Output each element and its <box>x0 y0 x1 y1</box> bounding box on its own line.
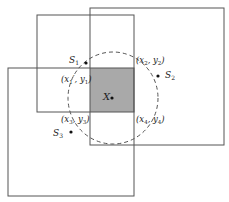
label-s3: S3 <box>53 128 63 139</box>
corner-label-4: (x4, y4) <box>136 114 165 125</box>
corner-label-2: (x2, y2) <box>136 55 165 66</box>
label-x: X <box>102 91 111 102</box>
corner-label-3: (x3, y3) <box>61 114 90 125</box>
point-x <box>110 96 113 99</box>
point-s3 <box>69 130 72 133</box>
point-s1 <box>84 61 87 64</box>
label-s1: S1 <box>69 55 79 66</box>
label-s2: S2 <box>165 70 175 81</box>
coverage-diagram: X S1 S2 S3 (x1′, y1) (x2, y2) (x3, y3) (… <box>0 0 229 202</box>
overlap-region <box>90 68 134 112</box>
corner-label-1: (x1′, y1) <box>61 74 92 85</box>
point-s2 <box>156 74 159 77</box>
